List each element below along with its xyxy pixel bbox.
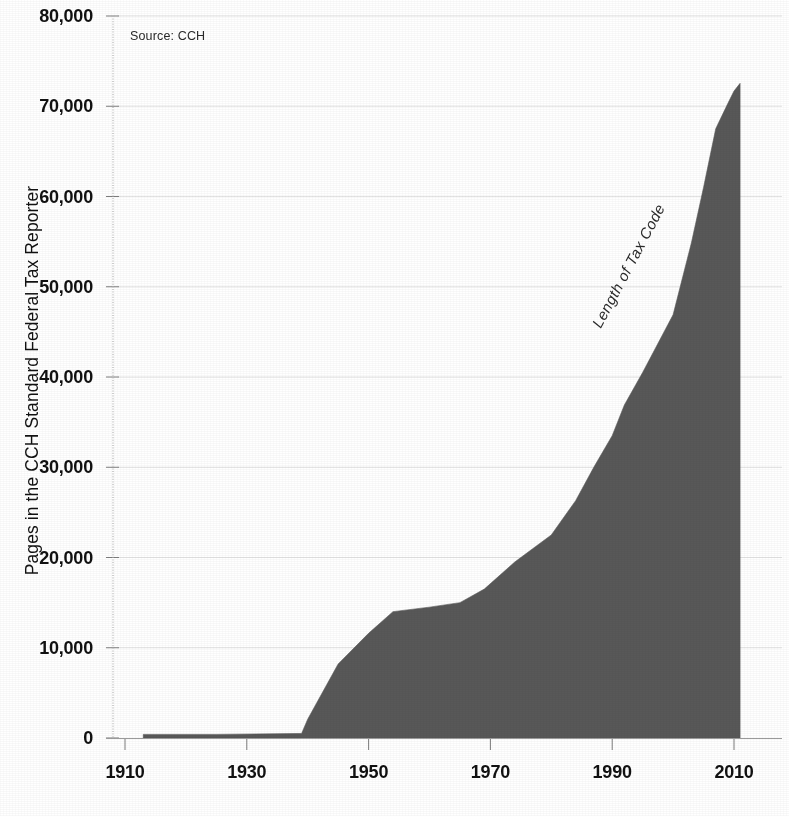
x-axis-tick-labels: 191019301950197019902010: [0, 0, 789, 816]
chart-container: Pages in the CCH Standard Federal Tax Re…: [0, 0, 789, 816]
x-tick-label: 1990: [593, 762, 632, 783]
x-tick-label: 1910: [105, 762, 144, 783]
x-tick-label: 1930: [227, 762, 266, 783]
x-tick-label: 1950: [349, 762, 388, 783]
x-tick-label: 2010: [714, 762, 753, 783]
x-tick-label: 1970: [471, 762, 510, 783]
source-note: Source: CCH: [130, 29, 205, 43]
